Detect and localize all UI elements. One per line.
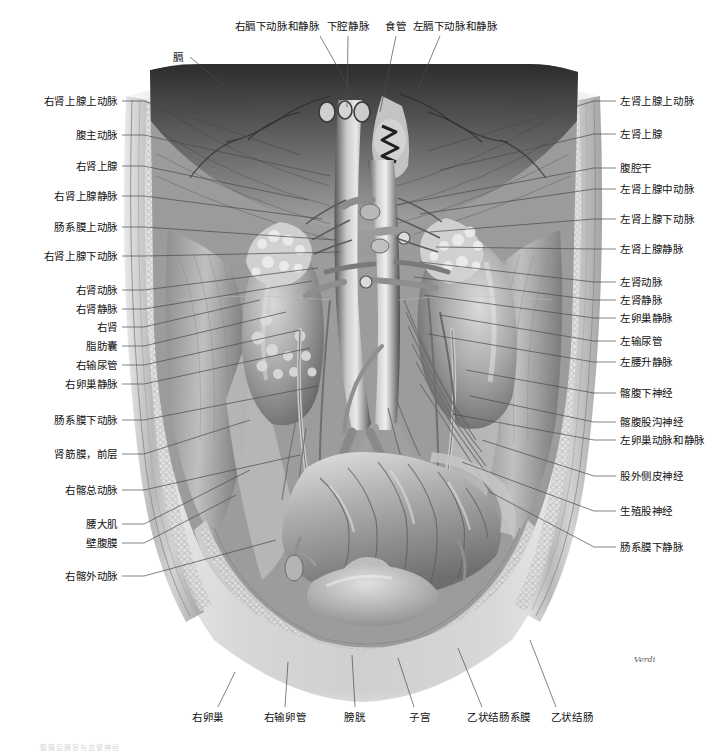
label-%E8%82%BE%E7%AD%8B%E8%86%9C%EF%BC%8C%E5%89%8D%E5%B1%82: 肾筋膜，前层: [54, 448, 118, 460]
label-%E9%AB%82%E8%85%B9%E4%B8%8B%E7%A5%9E%E7%BB%8F: 髂腹下神经: [620, 387, 673, 399]
label-%E8%82%A1%E5%A4%96%E4%BE%A7%E7%9A%AE%E7%A5%9E%E7%BB%8F: 股外侧皮神经: [620, 470, 684, 482]
label-%E7%94%9F%E6%AE%96%E8%82%A1%E7%A5%9E%E7%BB%8F: 生殖股神经: [620, 505, 673, 517]
label-%E8%85%B9%E4%B8%BB%E5%8A%A8%E8%84%89: 腹主动脉: [76, 129, 118, 141]
label-%E5%A3%81%E8%85%B9%E8%86%9C: 壁腹膜: [86, 537, 118, 549]
label-%E5%B7%A6%E8%82%BE%E9%9D%99%E8%84%89: 左肾静脉: [620, 294, 662, 306]
label-%E5%8F%B3%E5%8D%B5%E5%B7%A2: 右卵巢: [192, 711, 224, 723]
label-%E5%8F%B3%E8%BE%93%E5%8D%B5%E7%AE%A1: 右输卵管: [264, 711, 306, 723]
label-%E5%8F%B3%E8%82%BE%E5%8A%A8%E8%84%89: 右肾动脉: [76, 284, 118, 296]
label-%E5%8F%B3%E8%82%BE%E4%B8%8A%E8%85%BA%E9%9D%99%E8%84%89: 右肾上腺静脉: [54, 190, 118, 202]
label-%E5%8F%B3%E8%82%BE%E4%B8%8A%E8%85%BA: 右肾上腺: [76, 160, 118, 172]
artist-signature: Verdi: [634, 655, 655, 664]
label-%E8%85%B9%E8%85%94%E5%B9%B2: 腹腔干: [620, 162, 652, 174]
label-%E5%8F%B3%E8%82%BE: 右肾: [97, 321, 118, 333]
label-%E8%82%A0%E7%B3%BB%E8%86%9C%E4%B8%8A%E5%8A%A8%E8%84%89: 肠系膜上动脉: [54, 221, 118, 233]
label-%E8%86%88: 膈: [173, 51, 184, 63]
label-%E8%84%82%E8%82%AA%E5%9B%8A: 脂肪囊: [86, 340, 118, 352]
figure-caption: 腹膜后器官与血管神经: [40, 742, 120, 752]
label-%E9%AB%82%E8%85%B9%E8%82%A1%E6%B2%9F%E7%A5%9E%E7%BB%8F: 髂腹股沟神经: [620, 416, 684, 428]
label-%E5%B7%A6%E8%86%88%E4%B8%8B%E5%8A%A8%E8%84%89%E5%92%8C%E9%9D%99%E8%84%89: 左膈下动脉和静脉: [413, 20, 498, 32]
label-%E5%8F%B3%E5%8D%B5%E5%B7%A2%E9%9D%99%E8%84%89: 右卵巢静脉: [65, 378, 118, 390]
label-%E5%8F%B3%E8%82%BE%E9%9D%99%E8%84%89: 右肾静脉: [76, 303, 118, 315]
label-%E5%AD%90%E5%AE%AB: 子宫: [409, 711, 430, 723]
label-%E4%B9%99%E7%8A%B6%E7%BB%93%E8%82%A0: 乙状结肠: [551, 711, 593, 723]
label-%E5%B7%A6%E8%82%BE%E4%B8%8A%E8%85%BA%E4%B8%8B%E5%8A%A8%E8%84%89: 左肾上腺下动脉: [620, 213, 694, 225]
label-%E5%8F%B3%E8%86%88%E4%B8%8B%E5%8A%A8%E8%84%89%E5%92%8C%E9%9D%99%E8%84%89: 右膈下动脉和静脉: [235, 20, 320, 32]
label-%E5%B7%A6%E8%82%BE%E4%B8%8A%E8%85%BA: 左肾上腺: [620, 128, 662, 140]
label-%E5%8F%B3%E9%AB%82%E6%80%BB%E5%8A%A8%E8%84%89: 右髂总动脉: [65, 484, 118, 496]
figure-page: 右膈下动脉和静脉下腔静脉食管左膈下动脉和静脉 膈 右肾上腺上动脉腹主动脉右肾上腺…: [0, 0, 726, 756]
label-%E5%B7%A6%E5%8D%B5%E5%B7%A2%E9%9D%99%E8%84%89: 左卵巢静脉: [620, 312, 673, 324]
label-%E8%85%B0%E5%A4%A7%E8%82%8C: 腰大肌: [86, 518, 118, 530]
label-%E5%8F%B3%E9%AB%82%E5%A4%96%E5%8A%A8%E8%84%89: 右髂外动脉: [65, 570, 118, 582]
label-%E5%B7%A6%E8%82%BE%E4%B8%8A%E8%85%BA%E4%B8%AD%E5%8A%A8%E8%84%89: 左肾上腺中动脉: [620, 183, 694, 195]
label-%E5%B7%A6%E8%82%BE%E4%B8%8A%E8%85%BA%E4%B8%8A%E5%8A%A8%E8%84%89: 左肾上腺上动脉: [620, 95, 694, 107]
label-%E5%B7%A6%E8%82%BE%E4%B8%8A%E8%85%BA%E9%9D%99%E8%84%89: 左肾上腺静脉: [620, 243, 684, 255]
label-%E8%82%A0%E7%B3%BB%E8%86%9C%E4%B8%8B%E5%8A%A8%E8%84%89: 肠系膜下动脉: [54, 414, 118, 426]
label-%E5%8F%B3%E8%82%BE%E4%B8%8A%E8%85%BA%E4%B8%8B%E5%8A%A8%E8%84%89: 右肾上腺下动脉: [44, 250, 118, 262]
label-%E4%B8%8B%E8%85%94%E9%9D%99%E8%84%89: 下腔静脉: [327, 20, 369, 32]
label-%E5%B7%A6%E8%85%B0%E5%8D%87%E9%9D%99%E8%84%89: 左腰升静脉: [620, 356, 673, 368]
label-%E8%86%80%E8%83%B1: 膀胱: [344, 711, 365, 723]
label-%E5%8F%B3%E8%82%BE%E4%B8%8A%E8%85%BA%E4%B8%8A%E5%8A%A8%E8%84%89: 右肾上腺上动脉: [44, 95, 118, 107]
label-%E5%8F%B3%E8%BE%93%E5%B0%BF%E7%AE%A1: 右输尿管: [76, 359, 118, 371]
label-%E5%B7%A6%E5%8D%B5%E5%B7%A2%E5%8A%A8%E8%84%89%E5%92%8C%E9%9D%99%E8%84%89: 左卵巢动脉和静脉: [620, 434, 705, 446]
label-%E8%82%A0%E7%B3%BB%E8%86%9C%E4%B8%8B%E9%9D%99%E8%84%89: 肠系膜下静脉: [620, 541, 684, 553]
label-%E5%B7%A6%E8%82%BE%E5%8A%A8%E8%84%89: 左肾动脉: [620, 276, 662, 288]
label-%E4%B9%99%E7%8A%B6%E7%BB%93%E8%82%A0%E7%B3%BB%E8%86%9C: 乙状结肠系膜: [467, 711, 531, 723]
label-%E5%B7%A6%E8%BE%93%E5%B0%BF%E7%AE%A1: 左输尿管: [620, 335, 662, 347]
label-%E9%A3%9F%E7%AE%A1: 食管: [385, 20, 406, 32]
